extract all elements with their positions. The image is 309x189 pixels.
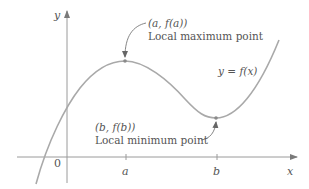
- function-graph-figure: y x 0 a b y = f(x) (a, f(a)) Local maxim…: [0, 0, 309, 189]
- local-max-description: Local maximum point: [148, 30, 264, 42]
- curve-f: [36, 40, 279, 184]
- local-min-point: [214, 116, 218, 120]
- y-axis-label: y: [53, 9, 61, 22]
- curve-label: y = f(x): [217, 65, 257, 77]
- local-max-coord-label: (a, f(a)): [148, 17, 187, 29]
- local-max-pointer-arrow: [125, 23, 146, 57]
- graph-canvas: y x 0 a b y = f(x) (a, f(a)) Local maxim…: [0, 0, 309, 189]
- origin-label: 0: [54, 157, 61, 170]
- x-axis-label: x: [287, 165, 294, 178]
- local-max-point: [123, 59, 127, 63]
- tick-label-a: a: [122, 165, 129, 178]
- local-min-coord-label: (b, f(b)): [95, 121, 135, 133]
- local-min-description: Local minimum point: [95, 134, 209, 146]
- tick-label-b: b: [213, 165, 220, 178]
